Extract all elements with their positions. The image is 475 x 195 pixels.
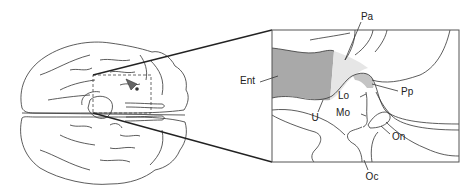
label-ent: Ent: [240, 75, 255, 86]
label-mo: Mo: [336, 107, 350, 118]
label-pa: Pa: [361, 11, 374, 22]
pp-region: [353, 73, 374, 88]
brain-diagram: Pa Ent Pp Lo U Mo On Oc: [0, 0, 475, 195]
label-u: U: [311, 112, 318, 123]
projection-line-top: [93, 30, 272, 75]
ent-region: [272, 48, 334, 100]
projection-line-bottom: [93, 113, 272, 162]
label-oc: Oc: [366, 171, 379, 182]
label-lo: Lo: [338, 90, 350, 101]
label-on: On: [392, 131, 405, 142]
brain-overview: [21, 42, 189, 184]
label-pp: Pp: [401, 86, 414, 97]
inset-panel: [272, 30, 459, 162]
